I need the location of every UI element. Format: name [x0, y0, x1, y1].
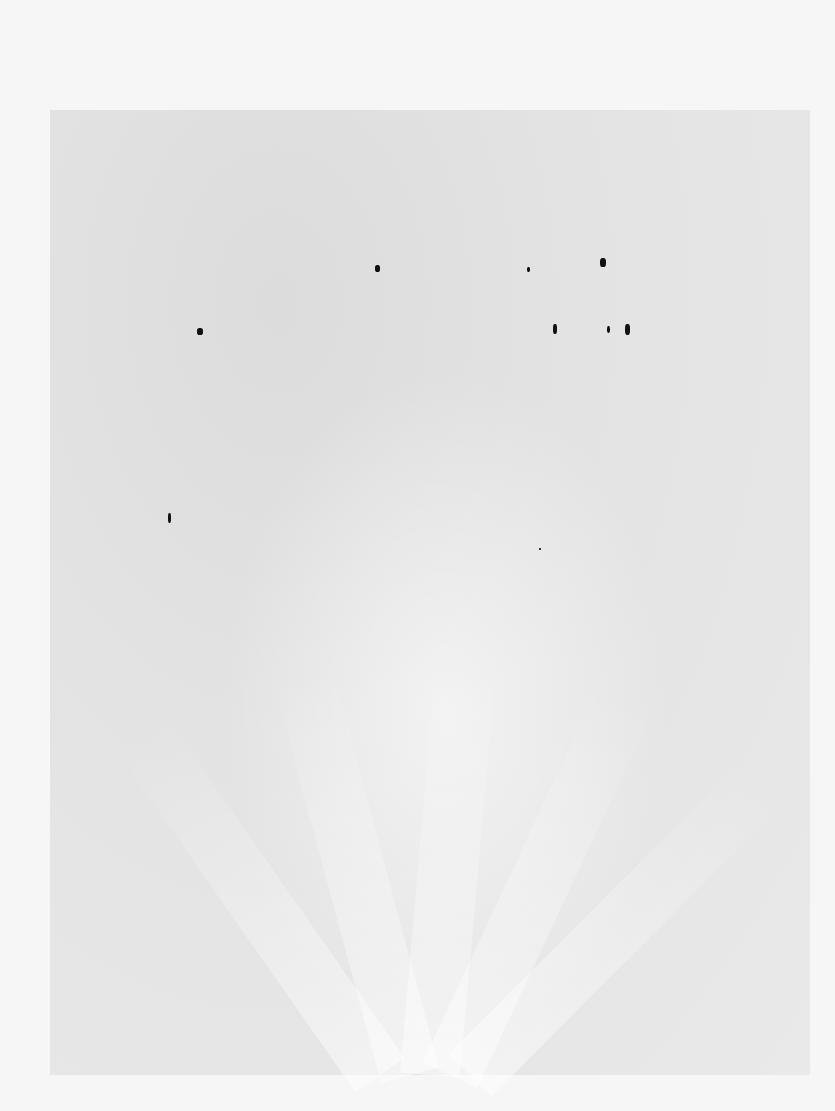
ink-speck	[527, 267, 530, 272]
scan-region	[50, 110, 810, 1075]
ink-speck	[600, 258, 606, 267]
ink-speck	[168, 513, 171, 523]
ink-speck	[607, 326, 610, 333]
ink-speck	[625, 324, 630, 335]
ink-speck	[553, 324, 557, 334]
ink-speck	[197, 328, 203, 335]
ink-speck	[539, 548, 541, 550]
ink-speck	[375, 265, 380, 272]
